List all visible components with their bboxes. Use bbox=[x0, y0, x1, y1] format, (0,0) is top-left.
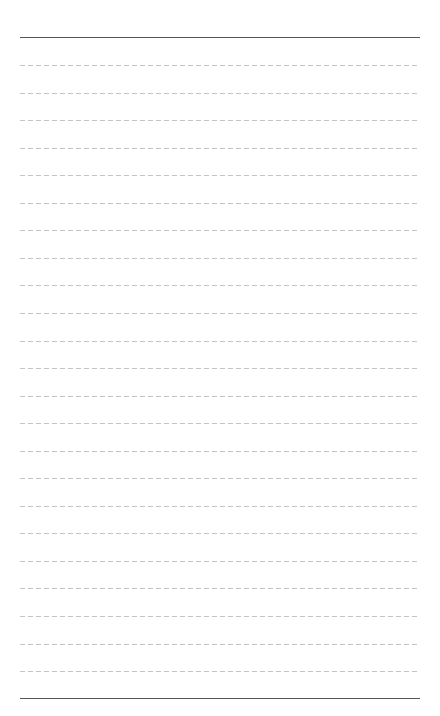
dashed-writing-line bbox=[20, 93, 420, 94]
bottom-rule-line bbox=[20, 698, 420, 699]
top-rule-line bbox=[20, 37, 420, 38]
dashed-writing-line bbox=[20, 368, 420, 369]
dashed-writing-line bbox=[20, 120, 420, 121]
dashed-writing-line bbox=[20, 616, 420, 617]
dashed-writing-line bbox=[20, 588, 420, 589]
dashed-writing-line bbox=[20, 451, 420, 452]
dashed-writing-line bbox=[20, 148, 420, 149]
dashed-writing-line bbox=[20, 341, 420, 342]
dashed-writing-line bbox=[20, 671, 420, 672]
dashed-writing-line bbox=[20, 203, 420, 204]
dashed-writing-line bbox=[20, 258, 420, 259]
dashed-writing-line bbox=[20, 285, 420, 286]
dashed-writing-line bbox=[20, 313, 420, 314]
dashed-writing-line bbox=[20, 533, 420, 534]
dashed-writing-line bbox=[20, 506, 420, 507]
dashed-writing-line bbox=[20, 396, 420, 397]
dashed-writing-line bbox=[20, 175, 420, 176]
dashed-writing-line bbox=[20, 65, 420, 66]
dashed-writing-line bbox=[20, 423, 420, 424]
dashed-writing-line bbox=[20, 644, 420, 645]
dashed-writing-line bbox=[20, 561, 420, 562]
dashed-writing-line bbox=[20, 478, 420, 479]
lined-paper-page bbox=[0, 0, 440, 716]
dashed-writing-line bbox=[20, 230, 420, 231]
